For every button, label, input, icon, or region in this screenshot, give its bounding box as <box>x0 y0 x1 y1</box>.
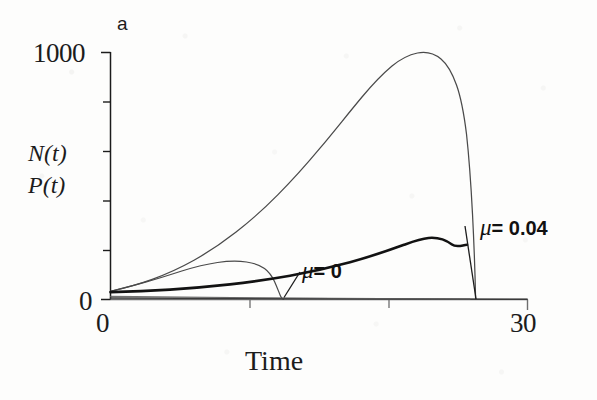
annotation-mu-004: μ= 0.04 <box>480 215 548 241</box>
annotation-mu-zero: μ= 0 <box>302 258 342 284</box>
y-axis-variable-n: N(t) <box>28 140 67 167</box>
curve-mu-004 <box>111 238 468 292</box>
y-axis <box>101 52 111 300</box>
y-axis-min-label: 0 <box>79 286 93 317</box>
mu-symbol-icon: μ <box>480 215 492 240</box>
y-axis-variable-p: P(t) <box>28 172 65 199</box>
x-axis <box>111 300 529 311</box>
plot-canvas <box>0 0 597 400</box>
panel-label: a <box>117 13 128 35</box>
y-axis-max-label: 1000 <box>33 38 85 69</box>
annotation-mu-004-value: = 0.04 <box>492 217 548 239</box>
x-axis-title: Time <box>245 345 303 377</box>
x-axis-max-label: 30 <box>510 308 536 339</box>
figure-panel: 1000 0 0 30 Time N(t) P(t) a μ= 0 μ= 0.0… <box>0 0 597 400</box>
x-axis-min-label: 0 <box>96 308 110 339</box>
annotation-mu-zero-value: = 0 <box>314 260 342 282</box>
mu-symbol-icon: μ <box>302 258 314 283</box>
